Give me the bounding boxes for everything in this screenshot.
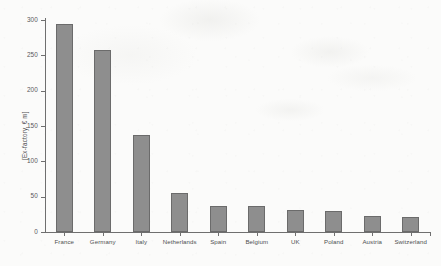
x-tick-label: Austria	[362, 239, 382, 245]
y-tick-label: 300	[27, 17, 38, 23]
y-tick-mark	[41, 197, 45, 198]
x-tick-label: Spain	[210, 239, 226, 245]
y-tick-label: 50	[31, 193, 38, 199]
y-tick-mark	[41, 20, 45, 21]
x-tick-mark	[218, 232, 219, 236]
bar	[325, 211, 342, 232]
x-tick-mark	[295, 232, 296, 236]
x-tick-label: Germany	[90, 239, 116, 245]
x-tick-mark	[64, 232, 65, 236]
bar	[287, 210, 304, 232]
y-tick-mark	[41, 161, 45, 162]
y-tick-mark	[41, 55, 45, 56]
x-tick-label: France	[54, 239, 74, 245]
x-tick-label: Belgium	[245, 239, 268, 245]
x-tick-mark	[180, 232, 181, 236]
x-tick-label: Switzerland	[394, 239, 427, 245]
x-tick-mark	[257, 232, 258, 236]
bar-chart-plot-area: [Ex-factory, € m] 050100150200250300 Fra…	[0, 0, 441, 266]
x-tick-label: Italy	[135, 239, 147, 245]
bar	[133, 135, 150, 232]
x-tick-label: Netherlands	[163, 239, 197, 245]
bar	[171, 193, 188, 232]
bar	[94, 50, 111, 232]
bar	[402, 217, 419, 232]
y-tick-label: 150	[27, 123, 38, 129]
y-axis-title: [Ex-factory, € m]	[22, 111, 28, 160]
x-tick-mark	[103, 232, 104, 236]
bar	[364, 216, 381, 232]
y-tick-label: 250	[27, 52, 38, 58]
y-tick-mark	[41, 232, 45, 233]
x-tick-mark-end	[430, 232, 431, 236]
y-tick-label: 0	[34, 229, 38, 235]
y-tick-mark	[41, 91, 45, 92]
y-tick-label: 100	[27, 158, 38, 164]
bar	[248, 206, 265, 232]
chart-figure: [Ex-factory, € m] 050100150200250300 Fra…	[0, 0, 441, 266]
x-tick-mark	[411, 232, 412, 236]
bar	[210, 206, 227, 232]
x-tick-label: Poland	[324, 239, 344, 245]
x-tick-mark	[334, 232, 335, 236]
x-tick-mark	[372, 232, 373, 236]
y-axis-line	[45, 18, 46, 233]
y-tick-mark	[41, 126, 45, 127]
bar	[56, 24, 73, 232]
x-tick-mark	[141, 232, 142, 236]
x-tick-label: UK	[291, 239, 300, 245]
y-tick-label: 200	[27, 87, 38, 93]
